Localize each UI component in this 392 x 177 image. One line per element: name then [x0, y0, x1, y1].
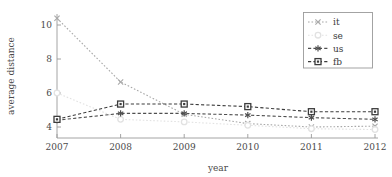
circle-marker [309, 126, 315, 132]
data-point-marker [245, 123, 251, 129]
series-line-fb [57, 104, 375, 119]
square-marker-core [120, 103, 122, 105]
y-tick-label: 8 [46, 54, 52, 64]
data-point-marker [118, 117, 124, 123]
data-point-marker [54, 116, 60, 122]
y-tick-label: 6 [46, 88, 52, 98]
legend-label-fb: fb [333, 57, 342, 67]
data-point-marker [245, 104, 251, 110]
data-point-marker [315, 59, 321, 65]
chart-legend: itseusfb [304, 13, 373, 69]
square-marker-core [56, 118, 58, 120]
x-axis-ticks: 200720082009201020112012 [46, 134, 387, 152]
circle-marker [54, 90, 60, 96]
square-marker-core [310, 111, 312, 113]
y-tick-label: 4 [46, 122, 52, 132]
x-tick-label: 2009 [173, 142, 196, 152]
circle-marker [245, 123, 251, 129]
y-axis-title: average distance [6, 37, 16, 115]
circle-marker [118, 117, 124, 123]
circle-marker [315, 32, 321, 38]
x-tick-label: 2011 [300, 142, 323, 152]
chart-figure: 46810 200720082009201020112012 average d… [0, 0, 392, 177]
data-point-marker [308, 109, 314, 115]
legend-label-se: se [333, 31, 343, 41]
line-chart-canvas: 46810 200720082009201020112012 average d… [0, 0, 392, 177]
square-marker-core [183, 103, 185, 105]
x-tick-label: 2010 [236, 142, 259, 152]
data-point-marker [372, 127, 378, 133]
data-point-marker [118, 101, 124, 107]
y-axis-ticks: 46810 [41, 20, 61, 132]
data-point-marker [118, 79, 123, 84]
circle-marker [372, 127, 378, 133]
data-point-marker [309, 126, 315, 132]
legend-label-it: it [333, 17, 340, 27]
square-marker-core [317, 61, 319, 63]
x-tick-label: 2008 [109, 142, 132, 152]
data-point-marker [372, 109, 378, 115]
x-tick-label: 2007 [46, 142, 69, 152]
series-se [54, 90, 378, 132]
x-tick-label: 2012 [364, 142, 387, 152]
legend-label-us: us [333, 44, 344, 54]
data-point-marker [181, 101, 187, 107]
square-marker-core [374, 111, 376, 113]
x-axis-title: year [207, 163, 229, 173]
y-tick-label: 10 [41, 20, 53, 30]
square-marker-core [247, 106, 249, 108]
data-point-marker [315, 32, 321, 38]
data-point-marker [54, 90, 60, 96]
data-point-marker [181, 119, 187, 125]
data-point-marker [372, 116, 377, 122]
circle-marker [181, 119, 187, 125]
